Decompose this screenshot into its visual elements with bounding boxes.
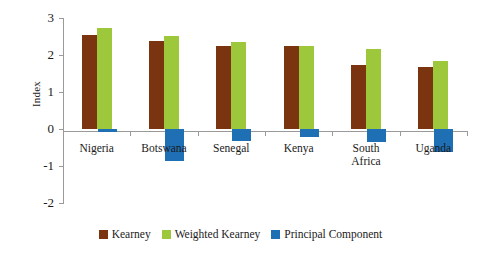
y-tick-label: 0 <box>48 121 55 137</box>
legend-label: Weighted Kearney <box>175 228 261 240</box>
y-tick-label: 1 <box>48 84 55 100</box>
legend-item[interactable]: Principal Component <box>271 228 382 240</box>
legend-swatch-icon <box>99 230 108 239</box>
bar-group: Botswana <box>130 18 197 203</box>
y-tick-label: 2 <box>48 47 55 63</box>
bar-group: Nigeria <box>63 18 130 203</box>
bar-kearney <box>216 46 231 129</box>
bar-kearney <box>418 67 433 129</box>
bar-group: Kenya <box>265 18 332 203</box>
y-axis-title: Index <box>30 64 42 124</box>
bar-weighted-kearney <box>97 28 112 129</box>
y-tick: -2 <box>59 203 64 204</box>
bar-group: Uganda <box>400 18 467 203</box>
legend-item[interactable]: Kearney <box>99 228 151 240</box>
bar-kearney <box>149 41 164 129</box>
legend-label: Principal Component <box>284 228 382 240</box>
bar-principal-component <box>367 129 386 142</box>
legend-swatch-icon <box>162 230 171 239</box>
y-tick-label: -2 <box>43 195 54 211</box>
x-axis-category-label: Senegal <box>198 142 265 155</box>
plot-area: 3210-1-2 NigeriaBotswanaSenegalKenyaSout… <box>63 18 467 203</box>
y-tick-label: 3 <box>48 10 55 26</box>
bar-kearney <box>284 46 299 129</box>
x-tick <box>467 131 468 136</box>
bar-principal-component <box>300 129 319 137</box>
bar-weighted-kearney <box>231 42 246 129</box>
bar-chart: Index 3210-1-2 NigeriaBotswanaSenegalKen… <box>0 0 481 264</box>
y-tick-label: -1 <box>43 158 54 174</box>
x-axis-category-label: Kenya <box>265 142 332 155</box>
legend-swatch-icon <box>271 230 280 239</box>
bar-weighted-kearney <box>299 46 314 129</box>
bar-group: SouthAfrica <box>332 18 399 203</box>
chart-legend: KearneyWeighted KearneyPrincipal Compone… <box>0 228 481 240</box>
bar-weighted-kearney <box>366 49 381 129</box>
bar-kearney <box>351 65 366 129</box>
x-axis-category-label: Nigeria <box>63 142 130 155</box>
x-axis-category-label: SouthAfrica <box>332 142 399 167</box>
bar-weighted-kearney <box>164 36 179 129</box>
x-axis-category-label: Botswana <box>130 142 197 155</box>
bar-group: Senegal <box>198 18 265 203</box>
x-axis-category-label: Uganda <box>400 142 467 155</box>
bar-principal-component <box>98 129 117 132</box>
bar-weighted-kearney <box>433 61 448 129</box>
legend-label: Kearney <box>112 228 151 240</box>
legend-item[interactable]: Weighted Kearney <box>162 228 261 240</box>
bar-principal-component <box>232 129 251 141</box>
bar-kearney <box>82 35 97 129</box>
